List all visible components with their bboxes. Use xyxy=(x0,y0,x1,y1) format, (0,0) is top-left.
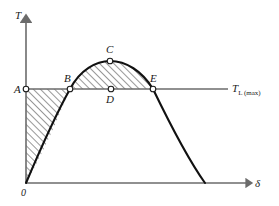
point-D-label: D xyxy=(105,93,114,105)
point-B-label: B xyxy=(64,72,71,84)
point-E-marker xyxy=(150,86,156,92)
y-axis-label: T xyxy=(15,9,22,21)
point-A-marker xyxy=(23,86,29,92)
figure-svg: A B C D E T δ 0 TL (max) xyxy=(0,0,279,206)
torque-load-angle-figure: A B C D E T δ 0 TL (max) xyxy=(0,0,279,206)
point-E-label: E xyxy=(149,72,157,84)
t-l-max-label-sub: L (max) xyxy=(238,89,261,97)
point-C-label: C xyxy=(106,43,114,55)
point-C-marker xyxy=(107,58,113,64)
t-l-max-label: TL (max) xyxy=(232,82,261,97)
point-A-label: A xyxy=(13,83,21,95)
x-axis-label: δ xyxy=(255,177,261,189)
point-B-marker xyxy=(67,86,73,92)
origin-label: 0 xyxy=(21,187,26,198)
point-D-marker xyxy=(108,86,114,92)
